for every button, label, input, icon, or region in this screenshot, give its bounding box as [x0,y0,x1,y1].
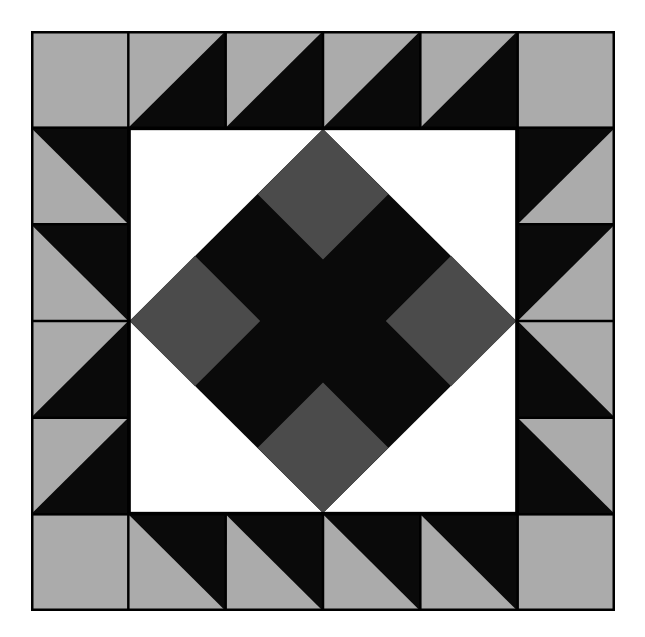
quilt-cell-r0-c3 [324,32,419,126]
quilt-cell-r5-c3 [324,516,419,610]
patch-solid [32,32,127,126]
quilt-cell-r2-c0 [32,226,127,320]
quilt-cell-r5-c4 [422,516,517,610]
quilt-cell-r5-c1 [130,516,225,610]
artwork-canvas [0,0,645,637]
quilt-cell-r0-c0 [32,32,127,126]
quilt-cell-r0-c2 [227,32,322,126]
patch-solid [32,516,127,610]
quilt-cell-r5-c0 [32,516,127,610]
quilt-cell-r2-c5 [519,226,614,320]
quilt-cell-r0-c1 [130,32,225,126]
quilt-cell-r5-c2 [227,516,322,610]
quilt-cell-r3-c0 [32,322,127,416]
quilt-block [31,31,615,611]
quilt-cell-r0-c5 [519,32,614,126]
patch-solid [519,32,614,126]
center-medallion [130,129,517,513]
quilt-cell-r0-c4 [422,32,517,126]
quilt-block-svg [31,31,615,611]
quilt-cell-r1-c5 [519,129,614,223]
quilt-cell-r4-c0 [32,419,127,513]
quilt-cell-r3-c5 [519,322,614,416]
patch-solid [519,516,614,610]
quilt-cell-r5-c5 [519,516,614,610]
quilt-cell-r4-c5 [519,419,614,513]
quilt-cell-r1-c0 [32,129,127,223]
